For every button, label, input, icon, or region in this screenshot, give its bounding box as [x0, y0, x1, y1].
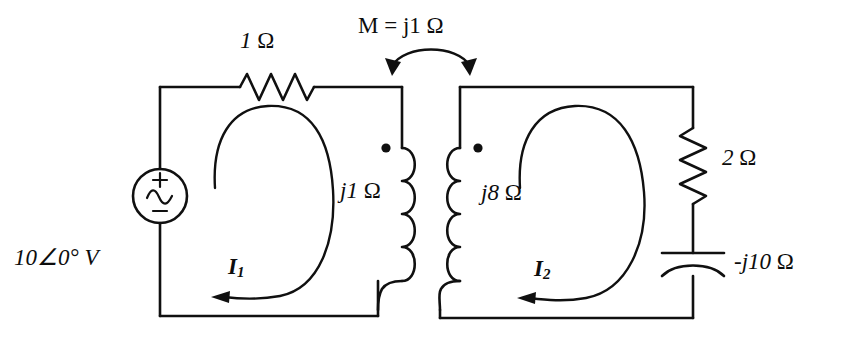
mesh-current-1-arrow-head — [211, 291, 230, 303]
inductor-j8-value: j8 — [481, 180, 499, 205]
inductor-j1-label: j1 Ω — [340, 178, 381, 204]
mutual-arrow-head-right — [461, 58, 477, 76]
mesh-current-2-subscript: 2 — [543, 266, 551, 282]
inductor-j1-value: j1 — [340, 178, 358, 203]
mutual-coupling-arc — [392, 50, 470, 67]
inductor-j8-coil-symbol — [447, 148, 460, 281]
inductor-j1-unit: Ω — [364, 178, 381, 203]
mesh-current-1-label: I1 — [228, 254, 244, 281]
resistor-2-ohm-unit: Ω — [739, 145, 756, 170]
plus-sign-icon — [153, 173, 167, 187]
mesh-current-2-label: I2 — [534, 256, 550, 283]
inductor-j1-coil-symbol — [402, 148, 415, 281]
polarity-dot-left-icon — [381, 143, 390, 152]
resistor-1-ohm-label: 1 Ω — [240, 28, 274, 54]
sine-wave-icon — [147, 190, 172, 203]
inductor-j8-unit: Ω — [505, 180, 522, 205]
mesh-current-1-subscript: 1 — [237, 264, 245, 280]
polarity-dot-right-icon — [473, 143, 482, 152]
capacitor-label: -j10 Ω — [734, 249, 794, 275]
wire-coil-right-lower-jog — [439, 281, 460, 310]
resistor-2-ohm-symbol — [680, 128, 706, 204]
resistor-1-ohm-symbol — [240, 74, 314, 100]
mutual-inductance-label: M = j1 Ω — [358, 13, 444, 39]
mutual-arrow-head-left — [385, 58, 401, 76]
resistor-2-ohm-label: 2 Ω — [722, 145, 756, 171]
source-label: 10∠0° V — [14, 244, 99, 271]
inductor-j8-label: j8 Ω — [481, 180, 522, 206]
wire-coil-left-lower-jog — [378, 281, 402, 310]
mesh-current-2-arrow-head — [517, 292, 536, 304]
mesh-current-2-symbol: I — [534, 256, 543, 281]
mesh-current-1-symbol: I — [228, 254, 237, 279]
schematic-canvas: 1 Ω M = j1 Ω j1 Ω j8 Ω 2 Ω -j10 Ω 10∠0° … — [0, 0, 849, 337]
capacitor-value: -j10 — [734, 249, 771, 274]
resistor-2-ohm-value: 2 — [722, 145, 734, 170]
resistor-1-ohm-value: 1 — [240, 28, 252, 53]
capacitor-plate-curved — [662, 266, 724, 277]
capacitor-unit: Ω — [777, 249, 794, 274]
resistor-1-ohm-unit: Ω — [257, 28, 274, 53]
